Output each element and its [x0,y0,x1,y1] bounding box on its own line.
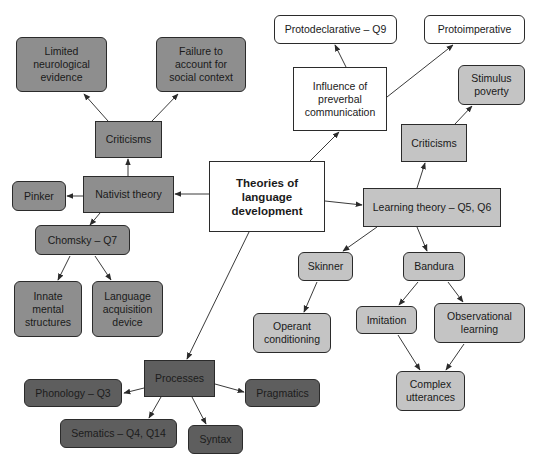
edge-criticisms-stimulus [455,106,472,124]
node-failure-social-context: Failure to account for social context [156,37,246,92]
edge-criticisms-limited [84,94,108,121]
edge-processes-pragmatics [215,384,244,392]
edge-learning-skinner [343,227,377,251]
concept-map-canvas: Theories of language development Influen… [0,0,539,465]
edge-root-learning [325,201,362,205]
edge-bandura-observational [448,282,463,302]
node-stimulus-poverty: Stimulus poverty [458,65,525,105]
node-language-acquisition-device: Language acquisition device [92,281,163,337]
node-influence-of-preverbal-communication: Influence of preverbal communication [293,67,387,131]
node-bandura: Bandura [403,252,465,281]
edge-criticisms-failure [152,94,178,121]
edge-observational-complex [446,344,464,370]
node-imitation: Imitation [356,306,417,334]
node-learning-criticisms: Criticisms [401,124,467,162]
edge-bandura-imitation [399,282,418,305]
node-innate-mental-structures: Innate mental structures [14,281,82,337]
node-skinner: Skinner [298,252,353,281]
node-observational-learning: Observational learning [434,303,525,343]
node-semantics: Sematics – Q4, Q14 [60,419,177,448]
edge-chomsky-innate [58,256,70,280]
node-protodeclarative: Protodeclarative – Q9 [274,15,397,44]
edge-influence-protoimperative [387,45,453,97]
node-learning-theory: Learning theory – Q5, Q6 [363,188,501,227]
node-complex-utterances: Complex utterances [396,371,465,411]
node-protoimperative: Protoimperative [424,15,525,44]
edge-influence-protodeclarative [335,45,346,67]
node-limited-neurological-evidence: Limited neurological evidence [16,37,107,92]
edge-nativist-chomsky [90,213,100,225]
node-nativist-theory: Nativist theory [83,176,174,213]
root-node-theories-of-language-development: Theories of language development [209,161,325,232]
edge-root-processes [187,232,249,359]
edge-root-influence [310,132,339,161]
edge-learning-bandura [417,227,427,251]
node-operant-conditioning: Operant conditioning [253,313,331,353]
node-processes: Processes [144,360,215,397]
edge-chomsky-lad [95,256,111,280]
edge-processes-semantics [149,397,161,418]
edge-learning-criticisms [417,163,425,188]
edge-processes-syntax [192,397,206,424]
node-phonology: Phonology – Q3 [24,379,122,407]
node-syntax: Syntax [188,425,243,454]
node-pinker: Pinker [12,181,66,211]
node-nativist-criticisms: Criticisms [95,121,162,158]
node-pragmatics: Pragmatics [245,379,320,407]
edge-processes-phonology [124,388,144,393]
node-chomsky: Chomsky – Q7 [35,225,130,255]
edge-skinner-operant [304,282,317,312]
edge-imitation-complex [398,335,420,370]
